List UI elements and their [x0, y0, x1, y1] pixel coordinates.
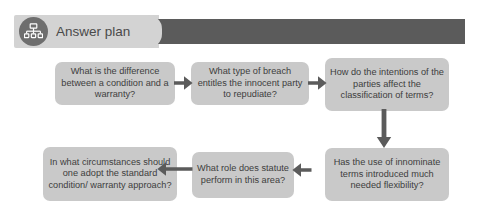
flow-node-label: Has the use of innominate terms introduc…	[330, 157, 444, 192]
flow-node-label: How do the intentions of the parties aff…	[330, 67, 444, 102]
banner-dark-bar	[140, 19, 465, 44]
arrow-left-icon	[291, 162, 312, 178]
flow-node-label: In what circumstances should one adopt t…	[48, 157, 172, 192]
arrow-right-icon	[308, 75, 327, 91]
page-title: Answer plan	[56, 15, 130, 48]
answer-plan-header-banner: Answer plan	[14, 15, 465, 48]
arrow-right-icon	[174, 75, 193, 91]
arrow-down-icon	[376, 109, 392, 149]
flow-node-intentions-classification[interactable]: How do the intentions of the parties aff…	[325, 58, 449, 111]
answer-plan-flowchart: What is the difference between a conditi…	[0, 55, 487, 216]
flow-node-label: What role does statute perform in this a…	[197, 163, 289, 186]
org-chart-icon	[19, 17, 48, 46]
flow-node-label: What is the difference between a conditi…	[60, 66, 170, 101]
flow-node-breach-repudiate[interactable]: What type of breach entitles the innocen…	[191, 62, 309, 105]
flow-node-statute-role[interactable]: What role does statute perform in this a…	[192, 152, 294, 198]
flow-node-label: What type of breach entitles the innocen…	[196, 66, 304, 101]
arrow-left-icon	[156, 161, 193, 177]
flow-node-innominate-terms-flexibility[interactable]: Has the use of innominate terms introduc…	[325, 148, 449, 201]
flow-node-difference-condition-warranty[interactable]: What is the difference between a conditi…	[55, 62, 175, 105]
